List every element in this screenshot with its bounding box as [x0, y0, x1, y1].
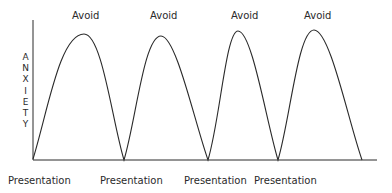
- y-axis-letter: X: [21, 74, 30, 85]
- peak-label-avoid-3: Avoid: [231, 10, 258, 22]
- y-axis-letter: A: [21, 52, 30, 63]
- trough-label-presentation-1: Presentation: [8, 175, 71, 187]
- peak-label-avoid-4: Avoid: [304, 10, 331, 22]
- y-axis-letter: T: [21, 108, 30, 119]
- trough-label-presentation-3: Presentation: [184, 175, 247, 187]
- y-axis-letter: Y: [21, 119, 30, 130]
- trough-label-presentation-4: Presentation: [254, 175, 317, 187]
- anxiety-cycle-diagram: [0, 0, 392, 193]
- y-axis-letter: N: [21, 63, 30, 74]
- anxiety-curve: [33, 30, 362, 160]
- y-axis-letter: I: [21, 86, 30, 97]
- y-axis-label: A N X I E T Y: [21, 52, 30, 130]
- trough-label-presentation-2: Presentation: [100, 175, 163, 187]
- peak-label-avoid-1: Avoid: [72, 10, 99, 22]
- y-axis-letter: E: [21, 97, 30, 108]
- peak-label-avoid-2: Avoid: [150, 10, 177, 22]
